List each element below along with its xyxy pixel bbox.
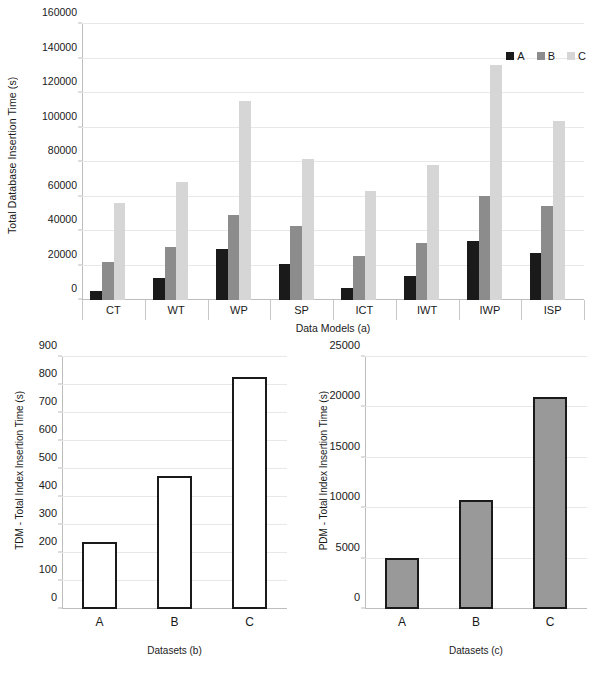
y-tick-label: 5000	[336, 541, 365, 553]
x-category-separator	[396, 300, 397, 320]
legend-item-a: A	[506, 50, 524, 62]
y-tick-mark	[78, 195, 82, 196]
x-tick-label-ict: ICT	[356, 300, 374, 316]
y-tick-mark	[78, 161, 82, 162]
bar-b	[157, 476, 192, 609]
y-tick-mark	[58, 468, 62, 469]
y-tick-label: 900	[39, 339, 62, 351]
y-tick-mark	[361, 557, 365, 558]
x-tick-label-c: C	[245, 609, 254, 629]
bar-ct-b	[102, 262, 114, 300]
y-tick-mark	[78, 230, 82, 231]
x-category-separator	[459, 300, 460, 320]
y-tick-mark	[361, 456, 365, 457]
y-tick-label: 100	[39, 563, 62, 575]
bar-wt-c	[176, 182, 188, 300]
y-tick-label: 0	[51, 591, 62, 603]
chart-b-plot-area: 0100200300400500600700800900 ABC	[62, 357, 287, 609]
legend-label-b: B	[548, 50, 555, 62]
bar-wp-b	[228, 215, 240, 300]
bar-iwp-c	[490, 65, 502, 300]
gridline	[62, 356, 287, 357]
x-category-separator	[270, 300, 271, 320]
legend-item-c: C	[567, 50, 586, 62]
x-tick-label-isp: ISP	[544, 300, 562, 316]
y-tick-label: 800	[39, 367, 62, 379]
x-tick-label-wt: WT	[168, 300, 185, 316]
y-tick-mark	[58, 524, 62, 525]
y-tick-label: 120000	[42, 75, 82, 87]
y-tick-mark	[78, 23, 82, 24]
y-tick-mark	[361, 608, 365, 609]
y-tick-mark	[58, 440, 62, 441]
x-category-separator	[333, 300, 334, 320]
bar-c	[232, 377, 267, 609]
bar-a	[385, 558, 419, 609]
bar-ict-b	[353, 256, 365, 300]
y-tick-label: 500	[39, 451, 62, 463]
bar-a	[82, 542, 117, 609]
x-tick-label-ct: CT	[106, 300, 121, 316]
y-tick-mark	[58, 356, 62, 357]
legend-swatch-c	[567, 52, 575, 60]
bar-isp-c	[553, 121, 565, 300]
gridline	[82, 230, 584, 231]
y-tick-mark	[361, 356, 365, 357]
legend-label-a: A	[517, 50, 524, 62]
bar-isp-b	[541, 206, 553, 300]
bar-ict-c	[365, 191, 377, 300]
chart-b-bar: TDM - Total Index Insertion Time (s) 010…	[0, 345, 300, 676]
bar-wp-a	[216, 249, 228, 300]
y-tick-label: 20000	[48, 248, 82, 260]
y-tick-label: 40000	[48, 213, 82, 225]
y-tick-mark	[78, 57, 82, 58]
y-tick-label: 0	[354, 591, 365, 603]
bar-sp-b	[290, 226, 302, 300]
x-tick-label-a: A	[398, 609, 406, 629]
x-tick-label-b: B	[472, 609, 480, 629]
y-tick-mark	[58, 496, 62, 497]
chart-c-x-axis-label: Datasets (c)	[365, 645, 587, 656]
x-category-separator	[584, 300, 585, 320]
bar-wt-b	[165, 247, 177, 300]
gridline	[82, 161, 584, 162]
chart-c-bar: PDM - Total Index Insertion Time (s) 050…	[300, 345, 600, 676]
chart-b-x-axis-label: Datasets (b)	[62, 645, 287, 656]
bar-isp-a	[530, 253, 542, 300]
y-tick-label: 0	[71, 282, 82, 294]
x-tick-label-c: C	[546, 609, 555, 629]
bar-sp-a	[279, 264, 291, 300]
y-tick-mark	[58, 580, 62, 581]
gridline	[82, 127, 584, 128]
y-tick-mark	[58, 412, 62, 413]
bar-iwt-a	[404, 276, 416, 300]
bar-iwp-b	[479, 196, 491, 300]
x-tick-label-sp: SP	[294, 300, 309, 316]
bar-iwt-c	[427, 165, 439, 300]
gridline	[82, 196, 584, 197]
y-tick-mark	[58, 552, 62, 553]
y-tick-mark	[78, 92, 82, 93]
legend-item-b: B	[537, 50, 555, 62]
y-tick-mark	[78, 126, 82, 127]
chart-a-x-axis-label: Data Models (a)	[82, 322, 584, 334]
y-tick-mark	[361, 507, 365, 508]
y-tick-mark	[58, 608, 62, 609]
y-tick-mark	[361, 406, 365, 407]
chart-a-grouped-bar: Total Database Insertion Time (s) 020000…	[0, 0, 600, 340]
gridline	[365, 356, 587, 357]
x-category-separator	[145, 300, 146, 320]
chart-a-y-axis-line	[82, 24, 83, 300]
y-tick-label: 600	[39, 423, 62, 435]
y-tick-label: 300	[39, 507, 62, 519]
y-tick-label: 25000	[329, 339, 365, 351]
legend-swatch-a	[506, 52, 514, 60]
chart-a-plot-area: 0200004000060000800001000001200001400001…	[82, 24, 584, 300]
y-tick-label: 15000	[329, 440, 365, 452]
gridline	[82, 92, 584, 93]
bar-ct-a	[90, 291, 102, 300]
legend-swatch-b	[537, 52, 545, 60]
x-tick-label-iwt: IWT	[417, 300, 437, 316]
x-tick-label-b: B	[170, 609, 178, 629]
bar-c	[533, 397, 567, 609]
